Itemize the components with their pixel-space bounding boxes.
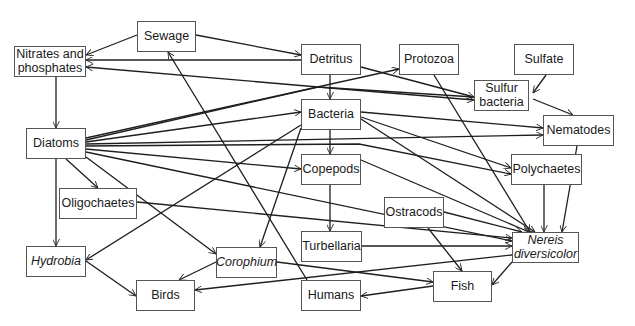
node-label: Fish — [451, 280, 475, 294]
edge-diatoms-to-bacteria — [86, 112, 301, 142]
edge-sulfur-bacteria-to-nematodes — [533, 99, 573, 115]
edge-fish-to-humans — [361, 286, 433, 296]
edge-sewage-to-nitrates — [86, 35, 137, 55]
edge-nereis-to-fish — [492, 262, 512, 285]
edge-diatoms-to-nematodes — [86, 135, 543, 144]
node-ostracods: Ostracods — [384, 197, 444, 228]
node-nitrates: Nitrates and phosphates — [14, 46, 86, 77]
node-label: Corophium — [216, 256, 277, 270]
node-label: Copepods — [303, 163, 360, 177]
node-label: Humans — [308, 289, 355, 303]
node-label: Sewage — [144, 30, 189, 44]
node-nematodes: Nematodes — [543, 115, 614, 146]
node-sulfate: Sulfate — [514, 44, 574, 75]
edge-diatoms-to-oligochaetes — [66, 159, 98, 188]
node-protozoa: Protozoa — [399, 44, 459, 75]
node-hydrobia: Hydrobia — [26, 246, 86, 277]
node-turbellaria: Turbellaria — [301, 231, 362, 262]
node-label: Nitrates and phosphates — [16, 48, 83, 75]
edge-sulfate-to-sulfur-bacteria — [533, 75, 546, 93]
node-polychaetes: Polychaetes — [511, 154, 582, 185]
node-label: Nematodes — [547, 124, 611, 138]
node-label: Hydrobia — [31, 255, 81, 269]
edge-hydrobia-to-birds — [86, 261, 136, 296]
edge-diatoms-to-nereis — [86, 152, 512, 241]
food-web-diagram: SewageNitrates and phosphatesDetritusPro… — [0, 0, 635, 326]
node-sewage: Sewage — [137, 21, 196, 52]
node-label: Bacteria — [308, 108, 354, 122]
node-nereis: Nereis diversicolor — [512, 232, 579, 263]
edge-sewage-to-detritus — [196, 35, 301, 55]
node-corophium: Corophium — [216, 247, 277, 278]
node-label: Protozoa — [404, 53, 454, 67]
node-label: Diatoms — [33, 137, 79, 151]
edge-bacteria-to-polychaetes — [361, 117, 511, 168]
node-label: Polychaetes — [512, 163, 580, 177]
node-label: Nereis diversicolor — [514, 234, 577, 261]
node-label: Sulfate — [525, 53, 564, 67]
node-oligochaetes: Oligochaetes — [59, 188, 137, 219]
edge-diatoms-to-polychaetes — [86, 144, 511, 174]
edge-ostracods-to-fish — [428, 228, 462, 271]
node-label: Oligochaetes — [62, 197, 135, 211]
node-humans: Humans — [301, 280, 361, 311]
node-sulfur-bacteria: Sulfur bacteria — [474, 80, 529, 111]
node-fish: Fish — [433, 271, 492, 302]
node-label: Turbellaria — [302, 240, 361, 254]
node-diatoms: Diatoms — [26, 128, 86, 159]
node-copepods: Copepods — [301, 154, 361, 185]
node-label: Sulfur bacteria — [479, 82, 523, 109]
edge-humans-to-sewage — [168, 52, 307, 280]
node-label: Birds — [151, 289, 179, 303]
edge-bacteria-to-corophium — [260, 128, 301, 247]
node-bacteria: Bacteria — [301, 99, 361, 130]
edge-corophium-to-birds — [179, 262, 216, 280]
node-detritus: Detritus — [301, 44, 361, 75]
node-label: Ostracods — [386, 206, 443, 220]
node-birds: Birds — [136, 280, 195, 311]
node-label: Detritus — [309, 53, 352, 67]
